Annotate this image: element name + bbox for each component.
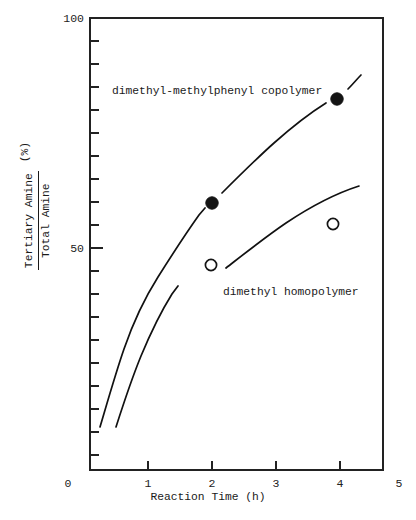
y-tick-label-100: 100 bbox=[63, 12, 84, 25]
x-tick-label-2: 2 bbox=[209, 477, 216, 490]
y-axis-unit: (%) bbox=[18, 142, 31, 162]
marker-copolymer-4h bbox=[331, 93, 343, 105]
y-tick-label-50: 50 bbox=[70, 242, 84, 255]
curve-copolymer-mid bbox=[222, 103, 326, 193]
curve-copolymer-upper bbox=[348, 75, 361, 89]
y-axis-title: Tertiary Amine Total Amine (%) bbox=[18, 106, 58, 306]
tick-label-group: 100 50 0 1 2 3 4 5 bbox=[63, 12, 402, 490]
series-label-homopolymer: dimethyl homopolymer bbox=[223, 286, 359, 298]
curve-copolymer-lower bbox=[100, 208, 205, 427]
curve-homopolymer-lower bbox=[116, 286, 178, 427]
curve-homopolymer-upper bbox=[226, 186, 359, 268]
marker-copolymer-2h bbox=[206, 197, 218, 209]
plot-canvas: 100 50 0 1 2 3 4 5 bbox=[0, 0, 416, 520]
y-axis-fraction: Tertiary Amine Total Amine bbox=[23, 171, 52, 270]
chart-figure: 100 50 0 1 2 3 4 5 dimethyl-methylphenyl… bbox=[0, 0, 416, 520]
series-curves bbox=[100, 75, 361, 427]
y-axis-denominator: Total Amine bbox=[39, 181, 53, 260]
x-tick-label-1: 1 bbox=[145, 477, 152, 490]
x-tick-label-4: 4 bbox=[337, 477, 344, 490]
x-axis-ticks bbox=[148, 461, 340, 470]
x-tick-label-0: 0 bbox=[65, 477, 72, 490]
series-markers bbox=[205, 93, 343, 271]
marker-homopolymer-4h bbox=[327, 218, 338, 229]
marker-homopolymer-2h bbox=[205, 259, 216, 270]
x-axis-title: Reaction Time (h) bbox=[0, 491, 416, 503]
y-axis-numerator: Tertiary Amine bbox=[23, 171, 37, 270]
x-tick-label-3: 3 bbox=[273, 477, 280, 490]
x-tick-label-5: 5 bbox=[396, 477, 403, 490]
series-label-copolymer: dimethyl-methylphenyl copolymer bbox=[112, 85, 322, 97]
